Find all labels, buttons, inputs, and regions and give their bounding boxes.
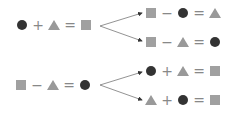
square-icon [81, 20, 91, 30]
square-symbol [143, 6, 159, 20]
square-symbol [78, 18, 94, 32]
equation-source-2: −= [13, 78, 93, 92]
square-icon [210, 66, 220, 76]
plus-sign: + [30, 18, 46, 32]
circle-icon [17, 20, 27, 30]
minus-sign: − [159, 35, 175, 49]
arrow-2b [100, 85, 142, 100]
triangle-icon [48, 20, 60, 30]
equation-target-1a: −= [143, 6, 223, 20]
triangle-symbol [143, 93, 159, 107]
equals-sign: = [191, 64, 207, 78]
triangle-symbol [207, 6, 223, 20]
circle-icon [80, 80, 90, 90]
equals-sign: = [62, 18, 78, 32]
circle-icon [146, 66, 156, 76]
triangle-icon [47, 80, 59, 90]
circle-symbol [175, 93, 191, 107]
triangle-symbol [175, 35, 191, 49]
circle-symbol [77, 78, 93, 92]
equation-target-1b: −= [143, 35, 223, 49]
square-icon [146, 8, 156, 18]
triangle-icon [209, 8, 221, 18]
square-icon [146, 37, 156, 47]
square-symbol [143, 35, 159, 49]
triangle-icon [177, 37, 189, 47]
circle-symbol [175, 6, 191, 20]
arrow-2a [100, 72, 142, 85]
circle-symbol [207, 35, 223, 49]
equation-target-2b: += [143, 93, 223, 107]
triangle-symbol [45, 78, 61, 92]
square-icon [210, 95, 220, 105]
plus-sign: + [159, 64, 175, 78]
triangle-symbol [175, 64, 191, 78]
circle-symbol [14, 18, 30, 32]
minus-sign: − [29, 78, 45, 92]
arrow-1b [100, 26, 142, 41]
equals-sign: = [191, 35, 207, 49]
circle-icon [178, 95, 188, 105]
triangle-icon [177, 66, 189, 76]
plus-sign: + [159, 93, 175, 107]
circle-icon [178, 8, 188, 18]
equation-source-1: += [14, 18, 94, 32]
equals-sign: = [191, 6, 207, 20]
triangle-symbol [46, 18, 62, 32]
square-icon [16, 80, 26, 90]
minus-sign: − [159, 6, 175, 20]
equation-target-2a: += [143, 64, 223, 78]
equals-sign: = [191, 93, 207, 107]
equals-sign: = [61, 78, 77, 92]
arrow-1a [100, 13, 142, 26]
circle-symbol [143, 64, 159, 78]
circle-icon [210, 37, 220, 47]
square-symbol [207, 64, 223, 78]
square-symbol [207, 93, 223, 107]
triangle-icon [145, 95, 157, 105]
square-symbol [13, 78, 29, 92]
